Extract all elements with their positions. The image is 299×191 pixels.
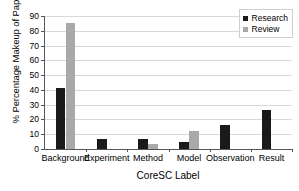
x-axis-label: Result bbox=[259, 153, 285, 163]
bar bbox=[56, 88, 66, 149]
bar bbox=[262, 110, 272, 149]
bar-chart: % Percentage Makeup of Paper 01020304050… bbox=[0, 0, 299, 191]
legend-label: Research bbox=[252, 13, 288, 23]
bar bbox=[189, 131, 199, 149]
y-axis-tick-label: 50 bbox=[30, 70, 39, 80]
bar bbox=[148, 144, 158, 149]
bar bbox=[97, 139, 107, 149]
y-axis-tick-label: 80 bbox=[30, 26, 39, 36]
y-axis-tick-label: 70 bbox=[30, 41, 39, 51]
x-axis-tick bbox=[292, 149, 293, 152]
legend-item: Review bbox=[243, 24, 288, 34]
x-axis-title: CoreSC Label bbox=[44, 170, 292, 181]
bar bbox=[220, 125, 230, 149]
bar bbox=[179, 142, 189, 149]
y-axis-tick-label: 20 bbox=[30, 114, 39, 124]
bar-group: Method bbox=[127, 16, 168, 149]
y-axis-tick bbox=[41, 149, 45, 150]
bar-group: Background bbox=[45, 16, 86, 149]
x-axis-tick bbox=[86, 149, 87, 152]
legend-swatch-icon bbox=[243, 16, 248, 21]
legend-label: Review bbox=[252, 24, 280, 34]
legend-item: Research bbox=[243, 13, 288, 23]
y-axis-tick-label: 0 bbox=[34, 144, 39, 154]
bar bbox=[66, 23, 76, 149]
x-axis-tick bbox=[169, 149, 170, 152]
bar bbox=[138, 139, 148, 149]
bar-group: Experiment bbox=[86, 16, 127, 149]
y-axis-tick-label: 60 bbox=[30, 55, 39, 65]
x-axis-tick bbox=[210, 149, 211, 152]
x-axis-tick bbox=[127, 149, 128, 152]
y-axis-tick-label: 30 bbox=[30, 100, 39, 110]
x-axis-label: Method bbox=[133, 153, 163, 163]
y-axis-tick-label: 10 bbox=[30, 129, 39, 139]
x-axis-label: Experiment bbox=[84, 153, 130, 163]
x-axis-label: Model bbox=[177, 153, 202, 163]
legend-swatch-icon bbox=[243, 27, 248, 32]
x-axis-label: Observation bbox=[206, 153, 255, 163]
x-axis-label: Background bbox=[42, 153, 90, 163]
y-axis-tick-label: 90 bbox=[30, 11, 39, 21]
y-axis-title: % Percentage Makeup of Paper bbox=[10, 0, 21, 133]
x-axis-tick bbox=[251, 149, 252, 152]
bar-group: Model bbox=[169, 16, 210, 149]
chart-legend: ResearchReview bbox=[239, 9, 293, 38]
y-axis-tick-label: 40 bbox=[30, 85, 39, 95]
